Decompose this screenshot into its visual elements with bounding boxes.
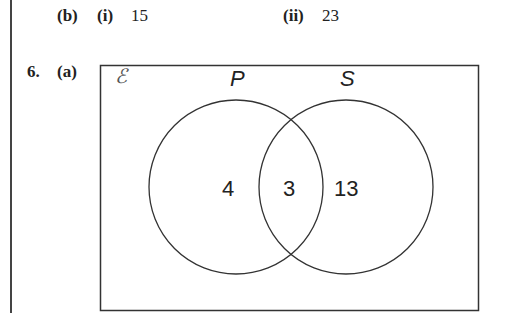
- set-s-label: S: [340, 66, 355, 92]
- set-p-label: P: [230, 66, 245, 92]
- universal-set-symbol: ℰ: [115, 64, 127, 88]
- region-s-only: 13: [334, 176, 358, 202]
- venn-diagram: [0, 0, 505, 313]
- set-p-circle: [149, 100, 323, 274]
- region-p-only: 4: [222, 176, 234, 202]
- region-intersection: 3: [283, 176, 295, 202]
